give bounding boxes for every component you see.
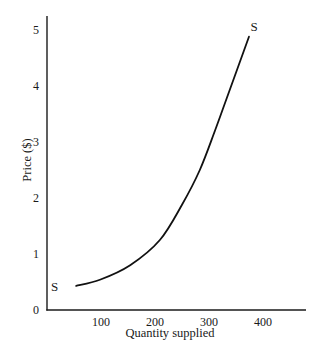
curve-label-start: S — [51, 279, 58, 294]
x-tick-label: 100 — [92, 315, 110, 329]
supply-curve — [76, 37, 249, 286]
y-tick-label: 1 — [33, 247, 39, 261]
y-axis-label: Price ($) — [20, 138, 34, 181]
y-tick-label: 5 — [33, 23, 39, 37]
y-tick-label: 2 — [33, 191, 39, 205]
axes — [46, 16, 306, 311]
y-tick-label: 0 — [33, 303, 39, 317]
curve-label-end: S — [251, 19, 258, 34]
y-tick-label: 4 — [33, 79, 39, 93]
supply-curve-chart: 012345 100200300400 S S Quantity supplie… — [0, 0, 324, 357]
x-axis-label: Quantity supplied — [125, 326, 215, 340]
x-tick-label: 400 — [254, 315, 272, 329]
